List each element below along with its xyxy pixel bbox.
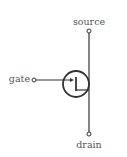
gate-label: gate (9, 73, 31, 84)
transistor-diagram: source gate drain (0, 0, 127, 157)
drain-terminal-icon (87, 132, 91, 136)
source-terminal-icon (87, 29, 91, 33)
source-label: source (73, 16, 106, 27)
drain-label: drain (76, 139, 101, 150)
gate-terminal-icon (32, 78, 36, 82)
gate-arrow-icon (70, 78, 74, 82)
